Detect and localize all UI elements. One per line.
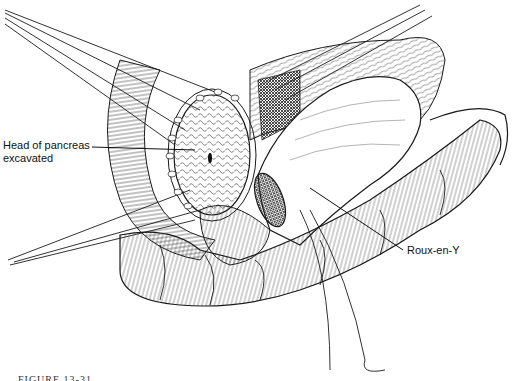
- label-pancreas-head: Head of pancreas excavated: [3, 139, 90, 165]
- label-line-2: excavated: [3, 152, 90, 165]
- label-roux-en-y: Roux-en-Y: [407, 244, 460, 257]
- pancreas-head: [166, 89, 256, 221]
- label-line-1: Head of pancreas: [3, 139, 90, 152]
- anatomical-illustration: [0, 0, 514, 381]
- figure-caption: FIGURE 13-31: [18, 374, 92, 381]
